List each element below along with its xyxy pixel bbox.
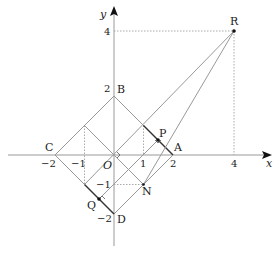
- x-tick-2: 2: [170, 158, 176, 169]
- x-tick-1: 1: [140, 158, 146, 169]
- x-tick--1: −1: [71, 158, 86, 169]
- label-c: C: [45, 141, 53, 154]
- x-tick--2: −2: [41, 158, 56, 169]
- point-r: [232, 29, 236, 33]
- label-b: B: [117, 83, 125, 96]
- label-n: N: [142, 185, 152, 198]
- y-tick--1: −1: [96, 179, 111, 190]
- label-r: R: [230, 15, 239, 28]
- y-tick-4: 4: [104, 26, 110, 37]
- y-axis-label: y: [99, 8, 107, 21]
- label-q: Q: [87, 199, 96, 212]
- label-a: A: [173, 141, 183, 154]
- label-p: P: [159, 127, 167, 140]
- point-q: [97, 197, 101, 201]
- construction-lines: [85, 31, 235, 199]
- label-d: D: [117, 213, 126, 226]
- label-o: O: [103, 159, 112, 172]
- y-tick--2: −2: [97, 213, 112, 224]
- x-axis-label: x: [266, 157, 273, 170]
- coordinate-diagram: x y R B C A P Q D N O −2 −1 1 2 4: [0, 0, 280, 255]
- x-tick-4: 4: [231, 158, 237, 169]
- y-tick-2: 2: [104, 83, 110, 94]
